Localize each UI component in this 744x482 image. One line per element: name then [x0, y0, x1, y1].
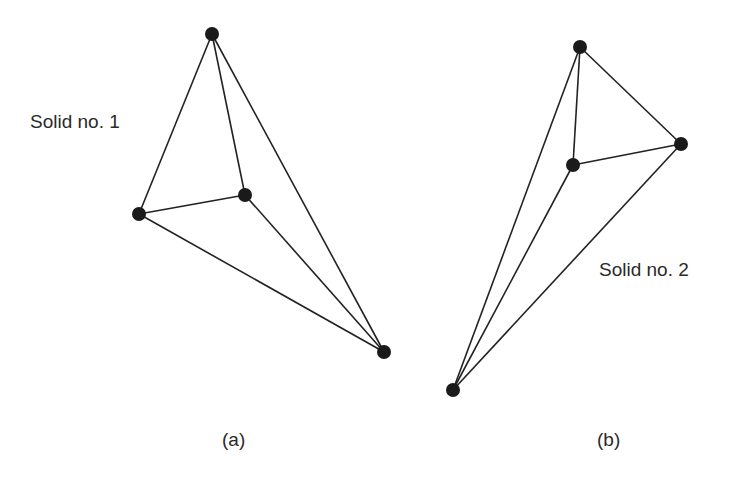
edge	[453, 165, 573, 390]
edge	[139, 195, 245, 214]
diagram-canvas	[0, 0, 744, 482]
edge	[212, 34, 245, 195]
solid-1-caption: (a)	[222, 430, 245, 449]
vertex-node	[573, 40, 587, 54]
vertex-node	[377, 345, 391, 359]
vertex-node	[446, 383, 460, 397]
solid-2-graph	[446, 40, 688, 397]
edge	[139, 34, 212, 214]
solid-2-caption: (b)	[597, 430, 620, 449]
solid-1-graph	[132, 27, 391, 359]
solid-1-label: Solid no. 1	[30, 112, 120, 131]
vertex-node	[132, 207, 146, 221]
vertex-node	[205, 27, 219, 41]
vertex-node	[674, 137, 688, 151]
solid-2-label: Solid no. 2	[599, 260, 689, 279]
vertex-node	[238, 188, 252, 202]
edge	[580, 47, 681, 144]
edge	[245, 195, 384, 352]
edge	[453, 47, 580, 390]
vertex-node	[566, 158, 580, 172]
